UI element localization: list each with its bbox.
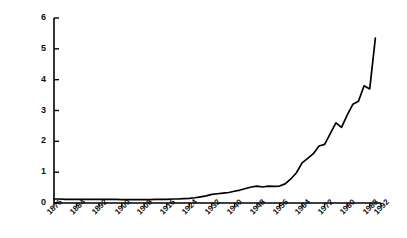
y-tick-label: 4 [32,74,46,84]
crime-line-chart: Total crimes in millions 0123456 1876188… [0,0,407,238]
data-series-line [54,38,375,200]
y-tick-label: 3 [32,105,46,115]
y-tick-label: 6 [32,12,46,22]
y-tick-label: 2 [32,135,46,145]
y-tick-label: 0 [32,197,46,207]
y-tick-label: 1 [32,166,46,176]
y-tick-label: 5 [32,43,46,53]
axes [54,18,381,203]
